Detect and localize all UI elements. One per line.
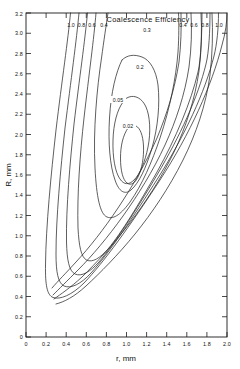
y-tick-label: 0.6	[15, 273, 23, 279]
y-axis-title: R, mm	[4, 163, 13, 187]
y-tick-label: 0.2	[15, 314, 23, 320]
x-tick-label: 1.2	[143, 341, 151, 347]
contour-path-0p6-right	[53, 13, 191, 295]
contour-path-0p02	[121, 125, 144, 184]
right-axis-ticks	[222, 33, 227, 317]
y-tick-label: 0	[20, 334, 23, 340]
contour-path-1p0-right	[56, 13, 212, 304]
x-tick-label: 0.6	[82, 341, 90, 347]
x-tick-label: 0	[24, 341, 27, 347]
contour-label-0p8-left: 0.8	[78, 22, 86, 28]
x-axis-title: r, mm	[116, 354, 136, 363]
x-tick-label: 1.8	[203, 341, 211, 347]
y-tick-label: 2.4	[15, 91, 23, 97]
contour-path-0p3	[94, 13, 178, 218]
y-tick-label: 1.4	[15, 192, 23, 198]
contour-path-0p6-left	[66, 13, 210, 275]
contour-label-0p4-right: 0.4	[179, 22, 187, 28]
contour-chart: 0 0.2 0.4 0.6 0.8 1.0 1.2 1.4 1.6 1.8 2.…	[0, 0, 240, 369]
contour-label-0p8-right: 0.8	[201, 22, 209, 28]
contour-labels-top-left: 1.0 0.8 0.6 0.4	[67, 22, 108, 28]
y-tick-label: 3.2	[15, 11, 23, 17]
contour-label-0p02: 0.02	[123, 123, 134, 129]
y-tick-label: 0.4	[15, 294, 23, 300]
y-tick-label: 1.0	[15, 233, 23, 239]
contour-label-0p05: 0.05	[113, 97, 124, 103]
y-tick-label: 2.8	[15, 51, 23, 57]
y-tick-label: 3.0	[15, 30, 23, 36]
y-tick-label: 2.0	[15, 132, 23, 138]
contour-path-0p8-left	[56, 13, 219, 287]
contour-label-0p3: 0.3	[143, 27, 151, 33]
plot-title: Coalescence Efficiency	[107, 15, 190, 24]
y-tick-label: 1.6	[15, 172, 23, 178]
contour-path-0p4-left	[78, 13, 202, 261]
contour-label-0p4-left: 0.4	[100, 22, 108, 28]
contour-label-0p2: 0.2	[136, 64, 144, 70]
x-tick-label: 0.8	[102, 341, 110, 347]
x-tick-label: 1.4	[163, 341, 171, 347]
y-tick-label: 0.8	[15, 253, 23, 259]
chart-svg: 0 0.2 0.4 0.6 0.8 1.0 1.2 1.4 1.6 1.8 2.…	[0, 0, 240, 369]
y-tick-label: 2.6	[15, 71, 23, 77]
contour-labels-top-right: 0.4 0.6 0.8 1.0	[179, 22, 223, 28]
x-axis-ticks	[26, 332, 227, 337]
contour-label-1p0-right: 1.0	[215, 22, 223, 28]
y-tick-label: 2.2	[15, 111, 23, 117]
x-axis-tick-labels: 0 0.2 0.4 0.6 0.8 1.0 1.2 1.4 1.6 1.8 2.…	[24, 341, 231, 347]
contour-label-0p6-right: 0.6	[190, 22, 198, 28]
y-tick-label: 1.2	[15, 213, 23, 219]
x-tick-label: 2.0	[223, 341, 231, 347]
contour-label-1p0-left: 1.0	[67, 22, 75, 28]
y-axis-ticks	[26, 13, 31, 337]
x-tick-label: 0.4	[62, 341, 70, 347]
contour-lines	[45, 13, 227, 304]
x-tick-label: 1.6	[183, 341, 191, 347]
contour-label-0p6-left: 0.6	[88, 22, 96, 28]
contour-labels-interior: 0.3 0.2 0.05 0.02	[110, 26, 154, 129]
plot-frame	[26, 13, 227, 337]
x-tick-label: 1.0	[123, 341, 131, 347]
x-tick-label: 0.2	[42, 341, 50, 347]
y-axis-tick-labels: 0 0.2 0.4 0.6 0.8 1.0 1.2 1.4 1.6 1.8 2.…	[15, 11, 23, 341]
y-tick-label: 1.8	[15, 152, 23, 158]
